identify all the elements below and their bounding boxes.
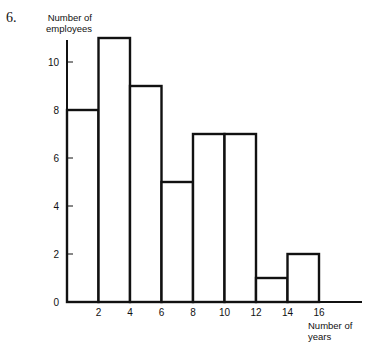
histogram-bar xyxy=(256,278,288,302)
x-tick-label: 6 xyxy=(159,307,165,318)
y-tick-label: 10 xyxy=(48,57,60,68)
x-tick-label: 14 xyxy=(282,307,294,318)
histogram-bar xyxy=(288,254,320,302)
y-tick-label: 4 xyxy=(53,201,59,212)
x-tick-label: 8 xyxy=(190,307,196,318)
x-tick-label: 10 xyxy=(219,307,231,318)
y-tick-label: 6 xyxy=(53,153,59,164)
histogram-bar xyxy=(193,134,225,302)
y-tick-label: 2 xyxy=(53,249,59,260)
x-tick-label: 2 xyxy=(96,307,102,318)
x-tick-label: 12 xyxy=(250,307,262,318)
histogram-bar xyxy=(99,38,131,302)
x-tick-label: 4 xyxy=(127,307,133,318)
histogram-bar xyxy=(162,182,194,302)
x-tick-label: 16 xyxy=(313,307,325,318)
y-tick-label: 0 xyxy=(53,297,59,308)
y-tick-label: 8 xyxy=(53,105,59,116)
histogram-bar xyxy=(225,134,257,302)
histogram-bar xyxy=(130,86,162,302)
